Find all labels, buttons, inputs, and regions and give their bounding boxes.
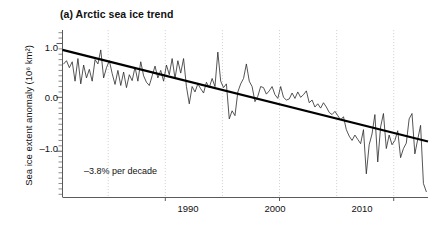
x-tick-label-2000: 2000: [253, 203, 297, 214]
chart-title: (a) Arctic sea ice trend: [60, 8, 173, 20]
trend-annotation: –3.8% per decade: [84, 166, 157, 176]
x-tick-label-1990: 1990: [166, 203, 210, 214]
plot-canvas: [0, 0, 435, 234]
y-tick-label-0: 0.0: [32, 92, 58, 103]
y-tick-marks-group: [57, 33, 63, 195]
y-axis-title-text: Sea ice extent anomaly (10⁶ km²): [23, 45, 34, 186]
linear-trend-line: [63, 50, 429, 142]
y-tick-label-minus1: –1.0: [32, 143, 58, 154]
x-tick-label-2010: 2010: [340, 203, 384, 214]
figure-panel: (a) Arctic sea ice trend Sea ice extent …: [0, 0, 435, 234]
y-tick-label-1: 1.0: [32, 42, 58, 53]
